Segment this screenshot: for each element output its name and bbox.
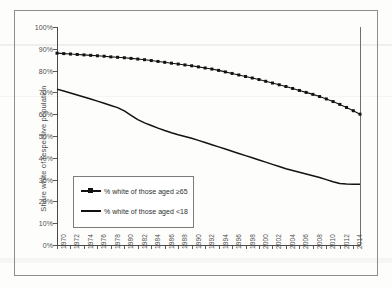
y-tick-label: 60%: [39, 111, 53, 118]
series-marker: [244, 75, 247, 78]
x-tick-mark: [192, 246, 193, 249]
y-tick-mark: [53, 114, 57, 115]
plot-right-edge: [360, 27, 361, 246]
series-marker: [224, 70, 227, 73]
x-tick-mark: [313, 246, 314, 249]
series-marker: [231, 72, 234, 75]
series-marker: [89, 54, 92, 57]
y-tick-label: 0%: [43, 242, 53, 249]
y-tick-label: 70%: [39, 89, 53, 96]
series-marker: [258, 78, 261, 81]
y-axis-tick-labels: 0%10%20%30%40%50%60%70%80%90%100%: [0, 0, 53, 288]
series-marker: [109, 55, 112, 58]
series-marker: [352, 109, 355, 112]
series-marker: [298, 89, 301, 92]
series-marker: [190, 64, 193, 67]
y-tick-label: 80%: [39, 67, 53, 74]
legend-item-under18: % white of those aged <18: [81, 207, 188, 215]
series-marker: [359, 113, 362, 116]
y-tick-mark: [53, 180, 57, 181]
series-marker: [338, 103, 341, 106]
y-tick-mark: [53, 201, 57, 202]
y-tick-mark: [53, 92, 57, 93]
series-line-over65: [57, 53, 360, 114]
legend-label-over65: % white of those aged ≥65: [104, 188, 188, 195]
series-marker: [116, 56, 119, 59]
x-tick-mark: [272, 246, 273, 249]
series-marker: [264, 80, 267, 83]
x-tick-mark: [326, 246, 327, 249]
series-marker: [163, 61, 166, 64]
y-tick-mark: [53, 245, 57, 246]
series-marker: [251, 77, 254, 80]
y-tick-label: 10%: [39, 220, 53, 227]
x-tick-mark: [84, 246, 85, 249]
series-marker: [197, 65, 200, 68]
series-line-under18: [57, 89, 360, 184]
y-tick-mark: [53, 71, 57, 72]
legend-label-under18: % white of those aged <18: [104, 208, 188, 215]
series-marker: [311, 93, 314, 96]
x-tick-mark: [151, 246, 152, 249]
y-tick-mark: [53, 136, 57, 137]
series-marker: [237, 73, 240, 76]
x-tick-mark: [57, 246, 58, 249]
series-marker: [56, 52, 59, 55]
x-tick-mark: [259, 246, 260, 249]
series-marker: [76, 53, 79, 56]
series-marker: [204, 66, 207, 69]
series-marker: [345, 106, 348, 109]
series-marker: [130, 57, 133, 60]
x-tick-mark: [205, 246, 206, 249]
x-tick-mark: [138, 246, 139, 249]
y-tick-mark: [53, 158, 57, 159]
x-tick-mark: [286, 246, 287, 249]
x-tick-mark: [97, 246, 98, 249]
series-marker: [278, 83, 281, 86]
series-marker: [183, 63, 186, 66]
series-marker: [96, 54, 99, 57]
x-tick-mark: [232, 246, 233, 249]
y-tick-label: 30%: [39, 176, 53, 183]
series-marker: [82, 53, 85, 56]
series-marker: [157, 60, 160, 63]
x-tick-mark: [70, 246, 71, 249]
series-marker: [291, 87, 294, 90]
y-tick-label: 90%: [39, 45, 53, 52]
x-tick-mark: [219, 246, 220, 249]
series-marker: [150, 59, 153, 62]
x-tick-mark: [246, 246, 247, 249]
series-marker: [325, 97, 328, 100]
legend-marker-square-line-icon: [81, 187, 101, 195]
series-marker: [177, 63, 180, 66]
y-tick-label: 50%: [39, 133, 53, 140]
chart-page: Share white of respective population 0%1…: [0, 0, 392, 288]
series-marker: [123, 56, 126, 59]
series-marker: [332, 100, 335, 103]
y-tick-mark: [53, 49, 57, 50]
x-tick-mark: [124, 246, 125, 249]
series-marker: [69, 53, 72, 56]
series-marker: [318, 95, 321, 98]
series-marker: [305, 91, 308, 94]
series-marker: [103, 55, 106, 58]
y-tick-mark: [53, 27, 57, 28]
series-marker: [284, 85, 287, 88]
x-tick-mark: [353, 246, 354, 249]
series-marker: [271, 82, 274, 85]
x-tick-mark: [299, 246, 300, 249]
series-marker: [136, 58, 139, 61]
series-marker: [217, 69, 220, 72]
legend-item-over65: % white of those aged ≥65: [81, 187, 188, 195]
series-marker: [143, 58, 146, 61]
y-tick-label: 100%: [35, 24, 53, 31]
series-marker: [170, 62, 173, 65]
x-tick-mark: [178, 246, 179, 249]
x-tick-mark: [340, 246, 341, 249]
y-tick-label: 40%: [39, 154, 53, 161]
x-tick-mark: [111, 246, 112, 249]
series-marker: [210, 68, 213, 71]
y-tick-label: 20%: [39, 198, 53, 205]
chart-legend: % white of those aged ≥65 % white of tho…: [73, 176, 194, 228]
y-tick-mark: [53, 223, 57, 224]
